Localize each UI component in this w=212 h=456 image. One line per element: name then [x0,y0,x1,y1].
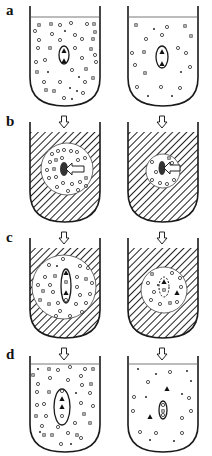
diagram-canvas [0,0,212,456]
panel-c [30,232,198,338]
tube-b-right [128,122,198,222]
arrow-down-icon [59,348,69,360]
tube-d-right [128,356,198,452]
panel-a [30,6,198,106]
tube-d-left [30,356,100,452]
tube-c-left [30,238,100,338]
tube-c-right [128,238,198,338]
arrow-down-icon [59,232,69,244]
arrow-down-icon [59,116,69,128]
tube-b-left [30,122,100,222]
arrow-down-icon [157,232,167,244]
tube-a-right [128,6,198,106]
tube-a-left [30,6,100,106]
panel-b [30,116,198,222]
panel-d [30,348,198,452]
arrow-down-icon [157,348,167,360]
arrow-down-icon [157,116,167,128]
